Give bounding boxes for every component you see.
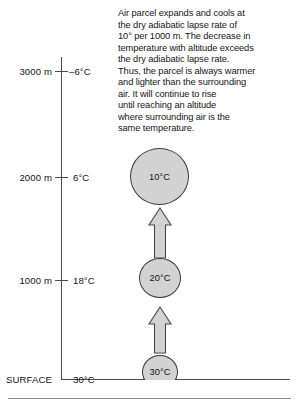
altitude-label-3000m: 3000 m	[0, 66, 52, 77]
tick-1000m	[55, 280, 68, 281]
air-parcel-30c: 30°C	[142, 355, 178, 380]
bottom-divider	[8, 398, 291, 399]
air-parcel-10c: 10°C	[130, 148, 189, 205]
tick-3000m	[55, 71, 68, 72]
air-parcel-30c-label: 30°C	[149, 367, 170, 377]
altitude-label-surface: SURFACE	[0, 374, 52, 385]
air-parcel-30c-clip: 30°C	[142, 355, 180, 380]
temperature-label-2000m: 6°C	[73, 172, 89, 183]
temperature-label-1000m: 18°C	[73, 275, 95, 286]
adiabatic-lapse-rate-diagram: Air parcel expands and cools at the dry …	[0, 0, 299, 404]
air-parcel-10c-label: 10°C	[149, 172, 170, 182]
rising-arrow-lower	[147, 306, 173, 354]
tick-2000m	[55, 177, 68, 178]
explanatory-note: Air parcel expands and cools at the dry …	[118, 8, 294, 135]
temperature-label-3000m: –6°C	[69, 66, 91, 77]
air-parcel-20c-label: 20°C	[149, 273, 170, 283]
rising-arrow-upper	[147, 207, 173, 259]
temperature-label-surface: 30°C	[73, 374, 95, 385]
altitude-label-1000m: 1000 m	[0, 275, 52, 286]
altitude-label-2000m: 2000 m	[0, 172, 52, 183]
air-parcel-20c: 20°C	[139, 258, 181, 298]
altitude-axis	[61, 57, 62, 379]
